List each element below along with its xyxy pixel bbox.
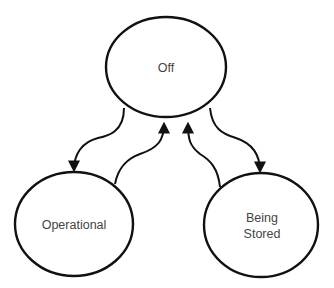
- state-operational: Operational: [15, 172, 133, 276]
- state-off: Off: [106, 17, 226, 117]
- state-operational-label: Operational: [42, 218, 107, 232]
- arrow-being-stored-to-off: [188, 124, 220, 187]
- state-off-label: Off: [158, 61, 175, 75]
- state-being-stored: Being Stored: [204, 173, 318, 277]
- state-diagram: Off Operational Being Stored: [0, 0, 334, 288]
- arrow-off-to-being-stored: [210, 108, 260, 171]
- arrow-off-to-operational: [74, 108, 124, 170]
- arrow-operational-to-off: [115, 124, 164, 184]
- state-being-stored-label-line1: Being: [246, 211, 278, 225]
- state-being-stored-label-line2: Stored: [244, 227, 281, 241]
